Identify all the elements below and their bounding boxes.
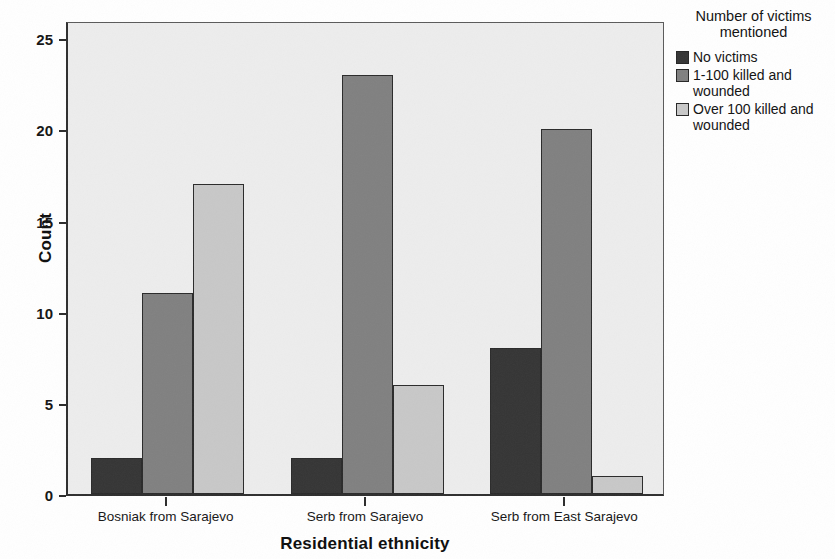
y-tick-label: 15 [19,214,53,231]
x-tick-mark [563,497,565,506]
y-tick-mark [59,130,66,132]
bar [541,129,592,494]
legend-entry: 1-100 killed and wounded [676,67,835,100]
y-tick-mark [59,404,66,406]
legend-label: Over 100 killed and wounded [693,101,835,134]
y-tick-mark [59,39,66,41]
y-tick-label: 5 [19,396,53,413]
y-axis-title: Count [36,178,56,298]
bar [291,458,342,494]
bar [142,293,193,494]
y-tick-label: 25 [19,31,53,48]
y-tick-mark [59,222,66,224]
x-tick-label: Serb from Sarajevo [265,509,465,524]
bars-layer [68,23,663,494]
x-tick-label: Serb from East Sarajevo [464,509,664,524]
bar-chart: Count 0510152025 Bosniak from SarajevoSe… [0,0,835,559]
legend-title-line1: Number of victims [695,8,811,24]
y-tick-mark [59,495,66,497]
legend-label: 1-100 killed and wounded [693,67,835,100]
x-tick-label: Bosniak from Sarajevo [66,509,266,524]
x-axis-title: Residential ethnicity [66,534,664,554]
bar [592,476,643,494]
plot-area [66,22,664,496]
y-tick-label: 10 [19,305,53,322]
x-tick-mark [165,497,167,506]
bar [342,75,393,494]
x-tick-mark [364,497,366,506]
legend-swatch [676,69,689,82]
legend-entry: Over 100 killed and wounded [676,101,835,134]
y-tick-label: 20 [19,122,53,139]
legend-label: No victims [693,49,758,66]
bar [91,458,142,494]
legend-entries: No victims1-100 killed and woundedOver 1… [676,49,835,134]
bar [393,385,444,494]
legend-title-line2: mentioned [720,24,788,40]
legend-swatch [676,103,689,116]
legend-title: Number of victims mentioned [676,8,835,40]
legend-swatch [676,51,689,64]
bar [193,184,244,494]
y-tick-label: 0 [19,487,53,504]
legend: Number of victims mentioned No victims1-… [676,8,835,135]
bar [490,348,541,494]
legend-entry: No victims [676,49,835,66]
y-tick-mark [59,313,66,315]
